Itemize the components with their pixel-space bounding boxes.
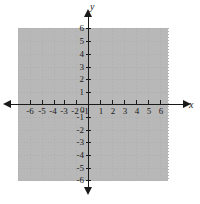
y-axis-tick xyxy=(86,79,91,80)
y-axis-tick xyxy=(86,28,91,29)
x-axis-label: x xyxy=(189,99,193,110)
y-axis-tick xyxy=(86,180,91,181)
y-axis-tick xyxy=(86,54,91,55)
y-tick-label-2: 2 xyxy=(70,75,84,84)
y-axis-tick xyxy=(86,41,91,42)
x-axis-left-arrow-icon xyxy=(3,100,11,108)
x-axis-tick xyxy=(124,100,125,105)
x-tick-label-6: 6 xyxy=(154,107,168,116)
y-axis-line xyxy=(88,16,89,192)
x-axis-tick xyxy=(100,100,101,105)
x-axis-tick xyxy=(160,100,161,105)
x-axis-tick xyxy=(136,100,137,105)
y-tick-label-neg6: -6 xyxy=(70,176,84,185)
x-axis-tick xyxy=(30,100,31,105)
x-axis-tick xyxy=(64,100,65,105)
y-tick-label-neg2: -2 xyxy=(70,126,84,135)
x-axis-tick xyxy=(54,100,55,105)
y-axis-label: y xyxy=(90,1,94,12)
graph-canvas: -6 -5 -4 -3 -2 -1 1 2 3 4 5 6 6 5 4 3 2 … xyxy=(0,0,200,204)
y-axis-tick xyxy=(86,130,91,131)
x-axis-tick xyxy=(112,100,113,105)
x-axis-tick xyxy=(148,100,149,105)
y-tick-label-4: 4 xyxy=(70,50,84,59)
y-tick-label-3: 3 xyxy=(70,63,84,72)
y-axis-tick xyxy=(86,117,91,118)
y-axis-down-arrow-icon xyxy=(84,187,92,195)
y-tick-label-1: 1 xyxy=(70,88,84,97)
y-tick-label-neg5: -5 xyxy=(70,164,84,173)
y-axis-tick xyxy=(86,168,91,169)
y-axis-tick xyxy=(86,155,91,156)
x-axis-tick xyxy=(42,100,43,105)
y-tick-label-neg3: -3 xyxy=(70,138,84,147)
y-axis-tick xyxy=(86,142,91,143)
y-axis-tick xyxy=(86,92,91,93)
y-axis-tick xyxy=(86,67,91,68)
y-tick-label-5: 5 xyxy=(70,37,84,46)
origin-label: 0 xyxy=(80,105,85,115)
y-tick-label-neg4: -4 xyxy=(70,151,84,160)
x-axis-tick xyxy=(76,100,77,105)
y-tick-label-6: 6 xyxy=(70,24,84,33)
